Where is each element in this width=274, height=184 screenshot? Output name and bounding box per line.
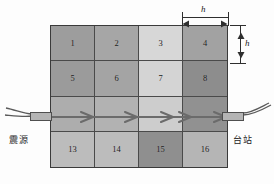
grid-cell-5[interactable]: 5 — [51, 61, 95, 96]
source-plug-icon — [30, 112, 52, 121]
station-plug-icon — [222, 112, 244, 121]
grid-cell-label: 14 — [112, 145, 121, 154]
grid-cell-8[interactable]: 8 — [183, 61, 227, 96]
grid-cell-label: 2 — [114, 39, 118, 48]
dimension-extension-line — [228, 12, 229, 26]
velocity-grid: 1 2 3 4 5 6 7 8 — [50, 25, 228, 168]
grid-cell-label: 4 — [203, 39, 207, 48]
grid-cell-label: 8 — [203, 74, 207, 83]
grid-cell-2[interactable]: 2 — [95, 26, 139, 61]
grid-cell-label: 6 — [114, 74, 118, 83]
grid-cell-13[interactable]: 13 — [51, 132, 95, 167]
grid-cell-label: 15 — [156, 145, 165, 154]
grid-cell-16[interactable]: 16 — [183, 132, 227, 167]
dimension-label-horizontal: h — [201, 4, 206, 14]
grid-cell-label: 16 — [201, 145, 210, 154]
grid-cell-6[interactable]: 6 — [95, 61, 139, 96]
grid-cell-label: 3 — [158, 39, 162, 48]
grid-cell-label: 1 — [70, 39, 74, 48]
grid-cell-7[interactable]: 7 — [139, 61, 183, 96]
dimension-label-vertical: h — [245, 38, 250, 48]
dimension-extension-line — [230, 63, 246, 64]
station-cable-icon — [241, 100, 273, 120]
dimension-arrow-left-icon — [182, 14, 190, 32]
source-label: 震源 — [9, 133, 28, 146]
grid-cell-15[interactable]: 15 — [139, 132, 183, 167]
dimension-arrow-down-icon — [237, 45, 245, 63]
grid-cell-label: 7 — [158, 74, 162, 83]
figure-canvas: 1 2 3 4 5 6 7 8 — [0, 0, 274, 184]
dimension-arrow-right-icon — [220, 14, 228, 32]
grid-cell-label: 13 — [68, 145, 77, 154]
dimension-line-horizontal — [182, 17, 228, 18]
grid-cell-1[interactable]: 1 — [51, 26, 95, 61]
dimension-arrow-up-icon — [237, 26, 245, 44]
ray-path — [50, 116, 228, 118]
grid-cell-3[interactable]: 3 — [139, 26, 183, 61]
grid-cell-14[interactable]: 14 — [95, 132, 139, 167]
dimension-line-vertical — [240, 26, 241, 63]
grid-cell-label: 5 — [70, 74, 74, 83]
station-label: 台站 — [233, 133, 252, 146]
